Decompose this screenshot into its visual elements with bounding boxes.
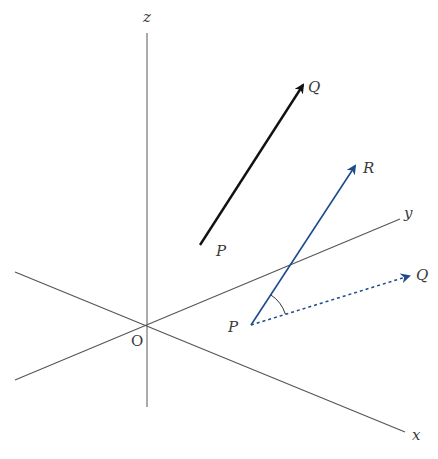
axes: z y x O: [15, 8, 421, 444]
origin-label: O: [131, 332, 143, 350]
y-axis: [15, 219, 400, 380]
vector-pq-line: [200, 85, 303, 245]
vector-pr-blue: P R: [227, 159, 374, 336]
vector-pq-dotted-line: [251, 276, 409, 325]
vector-diagram: z y x O P Q P R Q: [0, 0, 438, 459]
point-r-label: R: [362, 159, 374, 177]
point-q-label-black: Q: [308, 78, 320, 96]
angle-arc: [271, 295, 286, 315]
point-p-label-black: P: [215, 242, 227, 260]
vector-pq-blue-dotted: Q: [251, 266, 428, 325]
vector-pq-black: P Q: [200, 78, 320, 260]
x-axis-label: x: [412, 426, 421, 444]
z-axis-label: z: [142, 8, 151, 26]
point-p-label-blue: P: [227, 318, 239, 336]
vector-pr-line: [251, 166, 355, 325]
point-q-label-blue: Q: [416, 266, 428, 284]
y-axis-label: y: [403, 204, 413, 222]
x-axis: [15, 272, 405, 432]
